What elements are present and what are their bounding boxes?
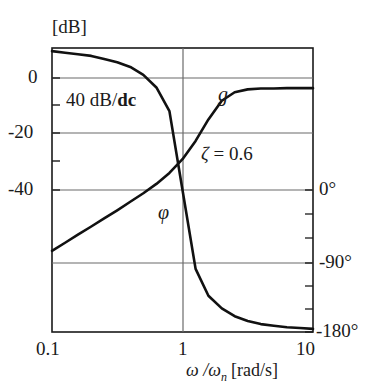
- phase-tick-label-0deg: 0°: [319, 178, 336, 200]
- phase-tick-label-minus180deg: -180°: [316, 320, 358, 342]
- x-tick-label-10: 10: [296, 338, 315, 360]
- damping-ratio-annotation: ζ = 0.6: [201, 143, 253, 165]
- x-axis-title: ω /ωn[rad/s]: [186, 360, 278, 385]
- y-tick-label-minus20: -20: [8, 121, 33, 143]
- y-tick-label-0: 0: [28, 66, 38, 88]
- x-axis-title-unit: [rad/s]: [231, 360, 278, 380]
- slope-annotation-prefix: 40 dB/: [66, 89, 117, 110]
- phase-curve-label: φ: [158, 201, 169, 224]
- x-axis-title-subscript: n: [221, 370, 227, 384]
- y-axis-unit-label: [dB]: [52, 16, 87, 38]
- x-tick-label-1: 1: [178, 338, 188, 360]
- slope-annotation: 40 dB/dc: [66, 89, 136, 111]
- x-axis-title-omega-ratio: ω /ω: [186, 360, 221, 380]
- gain-curve-label: g: [218, 83, 228, 106]
- slope-annotation-unit: dc: [117, 89, 136, 110]
- damping-ratio-symbol: ζ: [201, 143, 209, 164]
- y-tick-label-minus40: -40: [8, 178, 33, 200]
- phase-tick-label-minus90deg: -90°: [319, 251, 352, 273]
- x-tick-label-0p1: 0.1: [36, 338, 60, 360]
- damping-ratio-value: = 0.6: [209, 143, 253, 164]
- bode-plot-figure: [dB] 0 -20 -40 0° -90° -180° 0.1 1 10 ω …: [0, 0, 380, 388]
